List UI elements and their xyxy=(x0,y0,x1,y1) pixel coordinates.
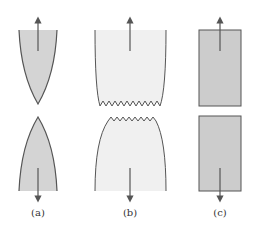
panel-b: (b) xyxy=(95,20,166,218)
panel-c-label: (c) xyxy=(213,207,227,218)
panel-a: (a) xyxy=(19,20,57,218)
panel-c: (c) xyxy=(199,20,241,218)
fracture-diagram: (a) (b) (c) xyxy=(0,0,253,227)
panel-b-label: (b) xyxy=(123,207,137,218)
panel-a-label: (a) xyxy=(31,207,45,218)
